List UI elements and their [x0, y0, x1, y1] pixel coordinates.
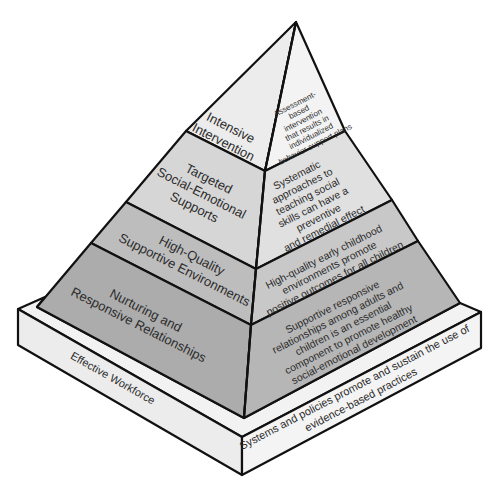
pyramid-svg: Intensive Intervention Targeted Social-E… [0, 0, 500, 492]
pyramid-diagram: Intensive Intervention Targeted Social-E… [0, 0, 500, 492]
